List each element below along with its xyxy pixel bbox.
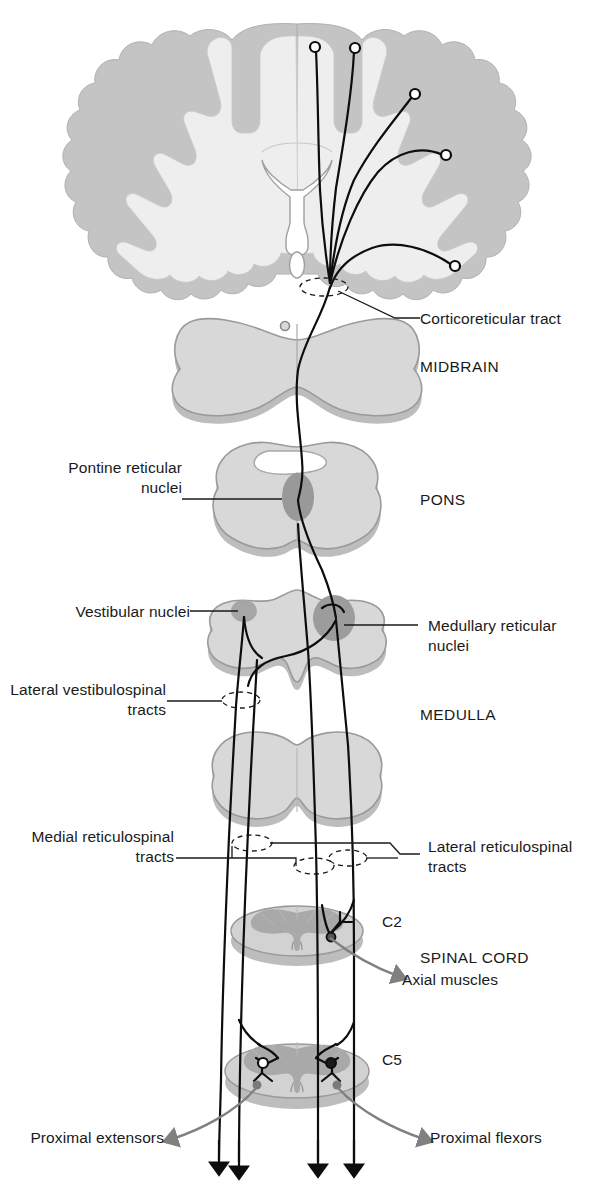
- cortical-neuron-soma-3: [410, 89, 420, 99]
- label-medulla: MEDULLA: [420, 705, 496, 725]
- label-medullary-reticular-nuclei: Medullary reticular nuclei: [428, 616, 557, 657]
- c5-flexor-motor-neuron-soma: [326, 1058, 336, 1068]
- cerebrum-coronal-section: [63, 24, 531, 300]
- leader-medial-reticulospinal: [176, 858, 296, 866]
- medullary-reticular-nucleus: [313, 595, 355, 641]
- label-proximal-flexors: Proximal flexors: [430, 1128, 542, 1148]
- medulla-caudal-section: [212, 732, 381, 827]
- spinal-cord-c2-section: [231, 905, 363, 966]
- label-lateral-vestibulospinal-tracts: Lateral vestibulospinal tracts: [6, 680, 166, 721]
- fourth-ventricle: [254, 451, 326, 474]
- third-ventricle: [290, 252, 305, 278]
- cortical-neuron-soma-2: [350, 43, 360, 53]
- c5-extensor-terminal: [253, 1081, 262, 1090]
- lateral-reticulospinal-tract-marker: [329, 850, 367, 866]
- leader-lateral-reticulospinal: [270, 843, 420, 854]
- label-medial-reticulospinal-tracts: Medial reticulospinal tracts: [6, 827, 174, 868]
- descending-tract-arrowheads: [219, 1140, 354, 1172]
- cortical-neuron-soma-5: [450, 261, 460, 271]
- label-spinal-cord: SPINAL CORD: [420, 948, 529, 968]
- label-axial-muscles: Axial muscles: [402, 970, 498, 990]
- label-c5: C5: [382, 1050, 402, 1070]
- c5-collateral-right: [337, 1022, 354, 1045]
- cortical-neuron-soma-4: [441, 150, 451, 160]
- medial-reticulospinal-tract-marker-lower: [294, 858, 334, 874]
- cerebral-aqueduct: [281, 322, 290, 331]
- label-c2: C2: [382, 912, 402, 932]
- label-midbrain: MIDBRAIN: [420, 357, 499, 377]
- diagram-svg: [0, 0, 595, 1191]
- label-proximal-extensors: Proximal extensors: [8, 1128, 164, 1148]
- c5-flexor-terminal: [333, 1081, 342, 1090]
- medulla-rostral-section: [208, 590, 386, 690]
- label-pontine-reticular-nuclei: Pontine reticular nuclei: [14, 458, 182, 499]
- anatomical-figure: Corticoreticular tract MIDBRAIN Pontine …: [0, 0, 595, 1191]
- label-pons: PONS: [420, 490, 466, 510]
- label-lateral-reticulospinal-tracts: Lateral reticulospinal tracts: [428, 837, 572, 878]
- medial-reticulospinal-tract-marker-upper: [232, 835, 272, 851]
- cortical-neuron-soma-1: [310, 42, 320, 52]
- c5-extensor-motor-neuron-soma: [258, 1058, 268, 1068]
- label-corticoreticular-tract: Corticoreticular tract: [420, 309, 561, 329]
- label-vestibular-nuclei: Vestibular nuclei: [14, 602, 190, 622]
